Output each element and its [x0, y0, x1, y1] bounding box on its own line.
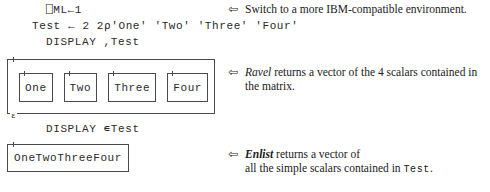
code-line-display-ravel: DISPLAY ,Test — [46, 36, 140, 48]
ravel-cell-row: One Two Three Four — [19, 73, 208, 102]
code-line-test-assignment: Test ← 2 2⍴'One' 'Two' 'Three' 'Four' — [32, 19, 298, 32]
annotation-ml-switch: ⇦ Switch to a more IBM-compatible enviro… — [228, 3, 486, 17]
ravel-cell: Four — [167, 73, 208, 102]
annotation-text: Enlist returns a vector of all the simpl… — [245, 148, 478, 176]
box-corner-tick-icon — [24, 71, 25, 76]
ravel-cell: Three — [108, 73, 156, 102]
enlist-result-box: OneTwoThreeFour — [7, 144, 129, 172]
code-line-display-enlist: DISPLAY ∊Test — [46, 122, 140, 135]
box-corner-tick-icon — [69, 71, 70, 76]
left-arrow-icon: ⇦ — [228, 148, 238, 162]
left-arrow-icon: ⇦ — [228, 66, 238, 80]
ravel-result-box: ε One Two Three Four — [7, 59, 215, 114]
box-corner-tick-icon — [113, 71, 114, 76]
ravel-cell-label: Two — [70, 82, 92, 94]
annotation-enlist: ⇦ Enlist returns a vector of all the sim… — [228, 148, 478, 176]
annotation-text: Switch to a more IBM-compatible environm… — [245, 3, 486, 17]
ravel-cell-label: Three — [114, 82, 150, 94]
annotation-keyword: Ravel — [245, 66, 271, 78]
box-corner-tick-icon — [13, 142, 14, 147]
epsilon-type-marker: ε — [10, 112, 17, 120]
enlist-result-label: OneTwoThreeFour — [14, 152, 122, 164]
ravel-cell: Two — [64, 73, 98, 102]
annotation-code-ref: Test — [403, 164, 429, 175]
annotation-ravel: ⇦ Ravel returns a vector of the 4 scalar… — [228, 66, 478, 93]
ravel-cell-label: Four — [173, 82, 202, 94]
annotation-keyword: Enlist — [245, 148, 273, 160]
box-corner-tick-icon — [172, 71, 173, 76]
box-corner-tick-icon — [13, 57, 14, 62]
ravel-cell-label: One — [25, 82, 47, 94]
ravel-cell: One — [19, 73, 53, 102]
annotation-text: Ravel returns a vector of the 4 scalars … — [245, 66, 478, 93]
annotation-body-tail: . — [430, 162, 433, 174]
left-arrow-icon: ⇦ — [228, 3, 238, 17]
code-line-ml-assignment: ⎕ML←1 — [46, 3, 82, 16]
annotation-body: returns a vector of the 4 scalars contai… — [245, 66, 480, 92]
